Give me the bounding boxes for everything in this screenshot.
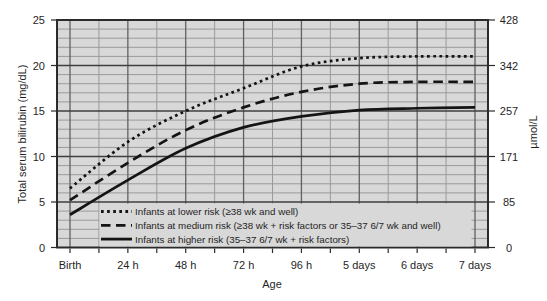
y-axis-tick-label-right: 257 [500, 105, 518, 117]
y-axis-tick-label-left: 15 [33, 105, 45, 117]
x-axis-tick-label: 48 h [175, 259, 196, 271]
y-axis-tick-label-right: 428 [500, 14, 518, 26]
x-axis-tick-label: 96 h [291, 259, 312, 271]
x-axis-tick-label: 72 h [233, 259, 254, 271]
x-axis-title: Age [262, 278, 282, 290]
x-axis-tick-label: Birth [59, 259, 82, 271]
y-axis-tick-label-right: 171 [500, 151, 518, 163]
legend-label: Infants at lower risk (≥38 wk and well) [135, 206, 298, 217]
y-axis-tick-label-left: 0 [39, 242, 45, 254]
x-axis-tick-label: 24 h [117, 259, 138, 271]
right-axis-title: µmol/L [527, 115, 539, 148]
x-axis-tick-label: 6 days [401, 259, 434, 271]
y-axis-tick-label-left: 20 [33, 60, 45, 72]
y-axis-tick-label-left: 25 [33, 14, 45, 26]
legend-label: Infants at higher risk (35–37 6/7 wk + r… [135, 234, 349, 245]
y-axis-tick-label-left: 5 [39, 196, 45, 208]
x-axis-tick-label: 7 days [459, 259, 492, 271]
y-axis-tick-label-left: 10 [33, 151, 45, 163]
chart-canvas: 0058510171152572034225428Birth24 h48 h72… [0, 0, 547, 301]
x-axis-tick-label: 5 days [343, 259, 376, 271]
y-axis-tick-label-right: 0 [506, 242, 512, 254]
y-axis-tick-label-right: 85 [503, 196, 515, 208]
legend-label: Infants at medium risk (≥38 wk + risk fa… [135, 220, 441, 231]
left-axis-title: Total serum bilirubin (mg/dL) [16, 65, 28, 204]
bilirubin-phototherapy-nomogram: 0058510171152572034225428Birth24 h48 h72… [0, 0, 547, 301]
y-axis-tick-label-right: 342 [500, 60, 518, 72]
